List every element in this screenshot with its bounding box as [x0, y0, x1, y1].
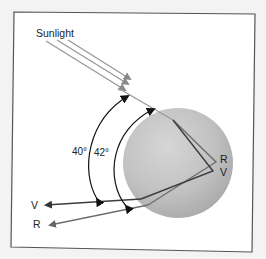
rainbow-diagram: Sunlight 40° 42° R V V R [0, 0, 266, 259]
output-label-violet: V [31, 199, 38, 211]
angle-label-42: 42° [94, 147, 109, 158]
exit-label-violet: V [220, 166, 227, 178]
angle-label-40: 40° [72, 146, 87, 157]
output-label-red: R [33, 218, 41, 230]
sunlight-label: Sunlight [36, 27, 74, 39]
exit-label-red: R [220, 153, 228, 165]
